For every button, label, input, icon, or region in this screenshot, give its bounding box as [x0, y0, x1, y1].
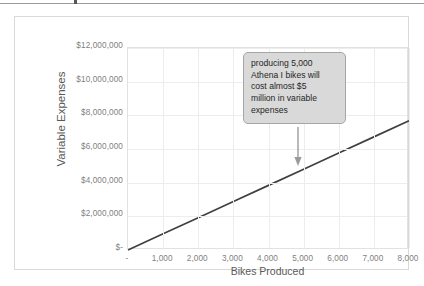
- annotation-text-line: cost almost $5: [251, 81, 339, 93]
- annotation-text-line: million in variable: [251, 93, 339, 105]
- y-axis-tick-label: $4,000,000: [81, 176, 123, 185]
- chart-container: $12,000,000$10,000,000$8,000,000$6,000,0…: [14, 16, 409, 270]
- y-axis-tick-label: $2,000,000: [81, 209, 123, 218]
- annotation-callout: producing 5,000Athena I bikes willcost a…: [243, 52, 346, 124]
- gridline-horizontal: [128, 149, 407, 150]
- gridline-horizontal: [128, 216, 407, 217]
- y-axis-title: Variable Expenses: [55, 39, 67, 199]
- gridline-horizontal: [128, 48, 407, 49]
- annotation-text-line: producing 5,000: [251, 58, 339, 70]
- clipped-text-descender: [74, 0, 77, 4]
- y-axis-tick-label: $-: [116, 243, 123, 252]
- annotation-text-line: Athena I bikes will: [251, 70, 339, 82]
- gridline-horizontal: [128, 183, 407, 184]
- gridline-vertical: [374, 48, 375, 248]
- annotation-text-line: expenses: [251, 105, 339, 117]
- y-axis-tick-label: $8,000,000: [81, 108, 123, 117]
- x-axis-tick-label: 3,000: [222, 254, 243, 263]
- gridline-vertical: [163, 48, 164, 248]
- gridline-vertical: [233, 48, 234, 248]
- gridline-vertical: [198, 48, 199, 248]
- x-axis-tick-label: 5,000: [292, 254, 313, 263]
- x-axis-tick-label: 8,000: [398, 254, 419, 263]
- x-axis-tick-label: 6,000: [327, 254, 348, 263]
- y-axis-tick-label: $12,000,000: [76, 41, 123, 50]
- x-axis-tick-label: -: [126, 254, 129, 263]
- x-axis-tick-label: 4,000: [257, 254, 278, 263]
- x-axis-title: Bikes Produced: [127, 265, 408, 277]
- y-axis-tick-label: $10,000,000: [76, 75, 123, 84]
- page-top-rule: [0, 3, 424, 4]
- annotation-arrow-icon: [292, 127, 304, 167]
- x-axis-tick-label: 1,000: [152, 254, 173, 263]
- x-axis-tick-label: 7,000: [362, 254, 383, 263]
- x-axis-tick-label: 2,000: [187, 254, 208, 263]
- gridline-vertical: [409, 48, 410, 248]
- y-axis-tick-label: $6,000,000: [81, 142, 123, 151]
